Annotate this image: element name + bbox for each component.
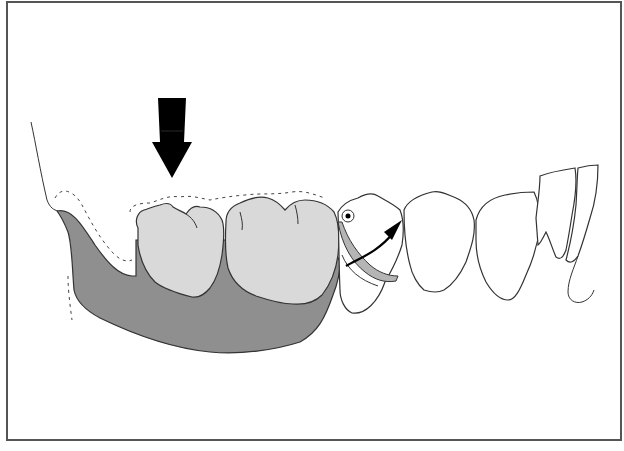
gingival-curve (568, 256, 594, 303)
retromolar-outline (31, 122, 58, 211)
ridge-outline-dashed-buccal (68, 276, 72, 320)
dental-diagram (0, 0, 624, 451)
canine-tooth (476, 192, 540, 300)
premolar-tooth (404, 192, 474, 292)
artificial-molar-2 (225, 197, 338, 304)
rest-seat-dot-inner (346, 214, 351, 219)
occlusal-force-arrow (152, 98, 192, 178)
